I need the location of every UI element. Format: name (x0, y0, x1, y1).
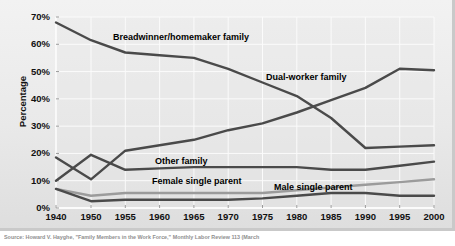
series-label: Other family (155, 156, 208, 166)
y-axis-tick-label: 60% (16, 38, 50, 49)
y-axis-tick-label: 10% (16, 175, 50, 186)
y-axis-tick-label: 50% (16, 66, 50, 77)
series-label: Male single parent (274, 182, 353, 192)
x-axis-tick-label: 1940 (36, 211, 76, 222)
series-label: Breadwinner/homemaker family (113, 32, 249, 42)
chart-plot-frame: Percentage 0%10%20%30%40%50%60%70%194019… (0, 0, 455, 231)
plot-background (56, 17, 434, 208)
series-label: Female single parent (152, 176, 242, 186)
y-axis-tick-label: 70% (16, 11, 50, 22)
y-axis-tick-label: 30% (16, 120, 50, 131)
x-axis-tick-label: 2000 (414, 211, 454, 222)
y-axis-tick-label: 40% (16, 93, 50, 104)
series-label: Dual-worker family (266, 72, 347, 82)
figure: Percentage 0%10%20%30%40%50%60%70%194019… (0, 0, 455, 246)
y-axis-tick-label: 20% (16, 147, 50, 158)
figure-caption: Source: Howard V. Hayghe, "Family Member… (4, 234, 455, 240)
